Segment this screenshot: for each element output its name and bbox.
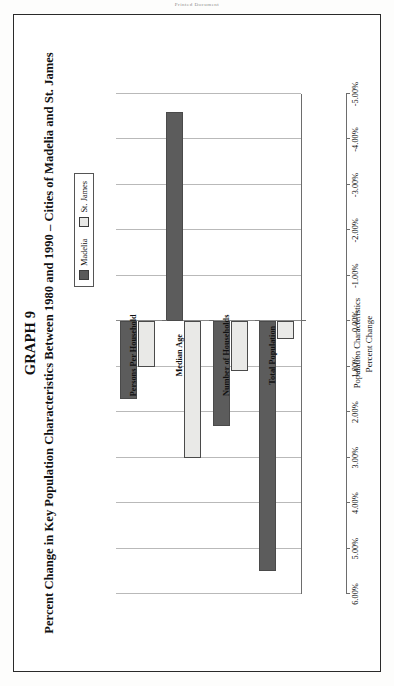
value-axis-tick bbox=[346, 275, 350, 276]
value-axis-tick bbox=[346, 320, 350, 321]
value-axis-tick bbox=[346, 93, 350, 94]
category-axis-tick bbox=[209, 320, 214, 321]
figure-border-box: GRAPH 9 Percent Change in Key Population… bbox=[13, 14, 381, 672]
category-axis-tick bbox=[255, 320, 260, 321]
chart-legend: Madelia St. James bbox=[74, 173, 94, 287]
value-axis-tick bbox=[346, 593, 350, 594]
bar-stjames-2 bbox=[184, 321, 201, 457]
printed-page: Printed Document GRAPH 9 Percent Change … bbox=[0, 0, 394, 686]
chart-title: GRAPH 9 bbox=[22, 17, 39, 669]
value-axis-tick bbox=[346, 138, 350, 139]
category-axis-label: Total Population bbox=[268, 307, 278, 403]
value-axis-tick bbox=[346, 366, 350, 367]
legend-item-madelia: Madelia bbox=[79, 239, 89, 280]
chart-subtitle: Percent Change in Key Population Charact… bbox=[42, 17, 57, 669]
rotated-figure-content: GRAPH 9 Percent Change in Key Population… bbox=[16, 17, 378, 669]
bar-madelia-2 bbox=[166, 112, 183, 321]
legend-item-stjames: St. James bbox=[79, 181, 89, 227]
category-axis-title: Population Characteristics bbox=[352, 17, 362, 669]
value-axis-tick bbox=[346, 548, 350, 549]
bar-stjames-0 bbox=[277, 321, 294, 339]
legend-label-stjames: St. James bbox=[80, 181, 89, 213]
category-axis-tick bbox=[162, 320, 167, 321]
category-axis-label: Number of Households bbox=[222, 307, 232, 403]
value-axis-title: Percent Change bbox=[364, 94, 374, 594]
legend-swatch-icon-madelia bbox=[79, 270, 89, 280]
category-axis: Total PopulationNumber of HouseholdsMedi… bbox=[301, 94, 343, 594]
value-axis-tick bbox=[346, 184, 350, 185]
bar-stjames-1 bbox=[231, 321, 248, 371]
category-axis-label: Persons Per Household bbox=[129, 307, 139, 403]
value-axis-tick bbox=[346, 457, 350, 458]
category-axis-label: Median Age bbox=[175, 307, 185, 403]
legend-label-madelia: Madelia bbox=[80, 239, 89, 266]
page-header-text: Printed Document bbox=[0, 2, 394, 14]
value-axis-tick bbox=[346, 411, 350, 412]
legend-swatch-icon-stjames bbox=[79, 217, 89, 227]
value-axis-tick bbox=[346, 502, 350, 503]
bar-stjames-3 bbox=[138, 321, 155, 366]
value-axis-tick bbox=[346, 229, 350, 230]
